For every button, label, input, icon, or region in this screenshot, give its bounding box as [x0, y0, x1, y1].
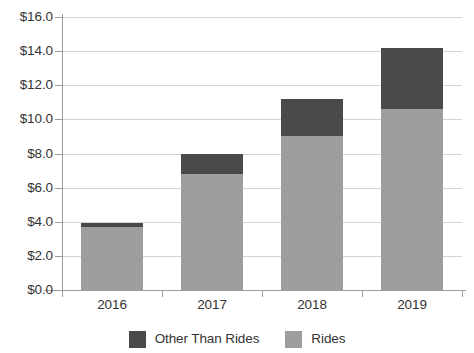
y-axis-tick-mark: [55, 119, 62, 120]
legend-swatch-icon: [285, 331, 302, 348]
bar-segment-other-than-rides[interactable]: [81, 223, 143, 226]
y-axis-tick-label: $6.0: [1, 181, 53, 195]
bar-stack[interactable]: [281, 17, 343, 290]
y-axis-tick-label: $12.0: [1, 78, 53, 92]
y-axis-tick-label: $10.0: [1, 112, 53, 126]
y-axis-tick-label: $4.0: [1, 215, 53, 229]
x-axis-tick-label: 2019: [362, 298, 462, 312]
x-axis-tick-mark: [462, 290, 463, 297]
legend-label: Rides: [311, 332, 345, 346]
bar-segment-rides[interactable]: [81, 227, 143, 290]
y-axis-line: [62, 14, 63, 294]
legend-swatch-icon: [129, 331, 146, 348]
y-axis-tick-label: $0.0: [1, 283, 53, 297]
y-axis-tick-mark: [55, 51, 62, 52]
chart-legend: Other Than RidesRides: [0, 325, 474, 353]
legend-label: Other Than Rides: [155, 332, 260, 346]
bar-stack[interactable]: [181, 17, 243, 290]
bar-stack[interactable]: [381, 17, 443, 290]
y-axis-tick-mark: [55, 17, 62, 18]
bar-segment-other-than-rides[interactable]: [281, 99, 343, 137]
bar-stack[interactable]: [81, 17, 143, 290]
y-axis-tick-label: $16.0: [1, 10, 53, 24]
x-axis-tick-mark: [362, 290, 363, 297]
y-axis-tick-label: $14.0: [1, 44, 53, 58]
y-axis-tick-mark: [55, 256, 62, 257]
y-axis-tick-label: $2.0: [1, 249, 53, 263]
y-axis-tick-label: $8.0: [1, 147, 53, 161]
x-axis-tick-label: 2017: [162, 298, 262, 312]
bar-segment-other-than-rides[interactable]: [381, 48, 443, 109]
legend-entry[interactable]: Rides: [285, 331, 345, 348]
y-axis-tick-labels: $0.0$2.0$4.0$6.0$8.0$10.0$12.0$14.0$16.0: [0, 0, 53, 353]
x-axis-tick-label: 2016: [62, 298, 162, 312]
bar-segment-rides[interactable]: [281, 136, 343, 290]
plot-area: [62, 17, 462, 290]
stacked-bar-chart: $0.0$2.0$4.0$6.0$8.0$10.0$12.0$14.0$16.0…: [0, 0, 474, 353]
y-axis-tick-mark: [55, 290, 62, 291]
y-axis-tick-mark: [55, 85, 62, 86]
bar-segment-rides[interactable]: [381, 109, 443, 290]
y-axis-tick-mark: [55, 188, 62, 189]
x-axis-tick-label: 2018: [262, 298, 362, 312]
bar-segment-rides[interactable]: [181, 174, 243, 290]
legend-entry[interactable]: Other Than Rides: [129, 331, 260, 348]
x-axis-tick-mark: [262, 290, 263, 297]
x-axis-tick-mark: [162, 290, 163, 297]
x-axis-line: [44, 290, 466, 291]
y-axis-tick-mark: [55, 154, 62, 155]
y-axis-tick-mark: [55, 222, 62, 223]
bar-segment-other-than-rides[interactable]: [181, 154, 243, 174]
x-axis-tick-mark: [62, 290, 63, 297]
